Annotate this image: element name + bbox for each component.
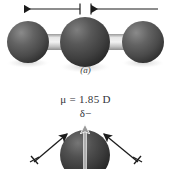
panel-a-caption: (a) [0, 66, 171, 75]
right-bond-dipole-arrow [104, 134, 142, 164]
delta-negative-label: δ− [0, 108, 171, 119]
panel-b-molecule-graphic [0, 0, 171, 169]
dipole-moment-value-label: μ = 1.85 D [0, 94, 171, 105]
molecular-dipole-figure: (a) μ = 1.85 D δ− Linear triatomic space… [0, 0, 171, 169]
